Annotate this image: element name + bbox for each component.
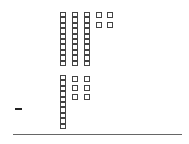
answer-line xyxy=(13,134,182,135)
unit-cube xyxy=(84,61,90,66)
tens-rod xyxy=(60,75,66,129)
ones-cube xyxy=(84,94,90,100)
ones-cube xyxy=(72,94,78,100)
ones-cube xyxy=(84,76,90,82)
ones-cube xyxy=(107,12,113,18)
unit-cube xyxy=(60,124,66,129)
unit-cube xyxy=(60,61,66,66)
tens-rod xyxy=(84,12,90,66)
ones-cube xyxy=(96,22,102,28)
minus-sign xyxy=(15,108,22,110)
ones-cube xyxy=(96,12,102,18)
ones-cube xyxy=(72,85,78,91)
ones-cube xyxy=(107,22,113,28)
tens-rod xyxy=(72,12,78,66)
unit-cube xyxy=(72,61,78,66)
ones-cube xyxy=(84,85,90,91)
tens-rod xyxy=(60,12,66,66)
ones-cube xyxy=(72,76,78,82)
